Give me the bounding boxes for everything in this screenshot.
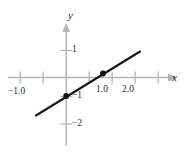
x-axis-label: x bbox=[172, 72, 177, 83]
plot-canvas bbox=[0, 0, 187, 153]
x-tick-label-one: 1.0 bbox=[96, 85, 108, 95]
x-tick-label-two: 2.0 bbox=[122, 85, 134, 95]
y-axis bbox=[62, 23, 70, 146]
y-tick-label-minus-two: −2 bbox=[72, 119, 82, 129]
y-axis-label: y bbox=[68, 10, 73, 21]
y-tick-label-one: 1 bbox=[72, 45, 77, 55]
data-point bbox=[63, 93, 69, 99]
y-tick-label-minus-one: −1 bbox=[72, 91, 82, 101]
x-tick-label-minus-one: −1.0 bbox=[8, 87, 25, 97]
graph-figure: y x −1.0 1.0 2.0 1 −1 −2 bbox=[0, 0, 187, 153]
data-point bbox=[100, 71, 106, 77]
